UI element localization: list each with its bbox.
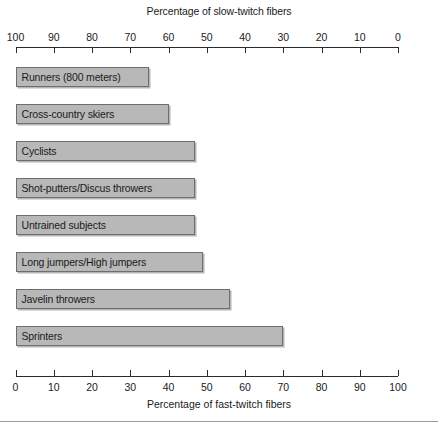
bottom-axis-tick-70: 70 — [277, 381, 289, 394]
bottom-axis-tick-20: 20 — [86, 381, 98, 394]
bottom-axis-line — [16, 376, 399, 377]
top-axis-tickmark-30 — [283, 47, 284, 53]
chart-figure: Percentage of slow-twitch fibers 1009080… — [0, 0, 438, 429]
bottom-axis-tick-80: 80 — [316, 381, 328, 394]
bar-label: Runners (800 meters) — [22, 71, 121, 83]
bottom-axis-tickmark-20 — [92, 370, 93, 376]
bottom-axis-tickmark-100 — [398, 370, 399, 376]
bar-label: Cross-country skiers — [22, 108, 115, 120]
bottom-axis-tick-0: 0 — [13, 381, 19, 394]
top-axis-tickmark-0 — [398, 47, 399, 53]
bar-label: Javelin throwers — [22, 293, 95, 305]
bottom-axis-tickmark-30 — [130, 370, 131, 376]
top-axis-tickmark-50 — [207, 47, 208, 53]
bottom-axis-tickmark-50 — [207, 370, 208, 376]
bar: Runners (800 meters) — [16, 67, 150, 87]
top-axis-tickmark-10 — [360, 47, 361, 53]
bottom-axis-tick-30: 30 — [124, 381, 136, 394]
top-axis-tickmark-40 — [245, 47, 246, 53]
bottom-axis-tickmark-70 — [283, 370, 284, 376]
top-axis-tickmark-100 — [16, 47, 17, 53]
bar-label: Untrained subjects — [22, 219, 106, 231]
bottom-axis-tick-10: 10 — [48, 381, 60, 394]
bottom-axis-title: Percentage of fast-twitch fibers — [0, 398, 438, 410]
bar: Sprinters — [16, 326, 284, 346]
bar: Untrained subjects — [16, 215, 196, 235]
bottom-axis-tick-100: 100 — [389, 381, 407, 394]
bottom-axis-tick-labels: 0102030405060708090100 — [0, 381, 438, 394]
bottom-axis-tick-50: 50 — [201, 381, 213, 394]
footer-divider — [0, 421, 438, 422]
bar: Javelin throwers — [16, 289, 230, 309]
bottom-axis-tickmark-90 — [360, 370, 361, 376]
bottom-axis-tick-90: 90 — [354, 381, 366, 394]
top-axis-tickmark-90 — [54, 47, 55, 53]
bar: Shot-putters/Discus throwers — [16, 178, 196, 198]
bottom-axis-tickmark-80 — [322, 370, 323, 376]
bottom-axis-tick-60: 60 — [239, 381, 251, 394]
top-axis-tickmark-70 — [130, 47, 131, 53]
bottom-axis-tickmark-10 — [54, 370, 55, 376]
bar: Long jumpers/High jumpers — [16, 252, 203, 272]
bar: Cross-country skiers — [16, 104, 169, 124]
bar-label: Sprinters — [22, 330, 63, 342]
top-axis-tickmark-60 — [169, 47, 170, 53]
bar-label: Cyclists — [22, 145, 57, 157]
bottom-axis-tickmark-60 — [245, 370, 246, 376]
bottom-axis-tickmark-40 — [169, 370, 170, 376]
top-axis-tickmark-80 — [92, 47, 93, 53]
bottom-axis-tick-40: 40 — [163, 381, 175, 394]
bar-label: Long jumpers/High jumpers — [22, 256, 147, 268]
bar: Cyclists — [16, 141, 196, 161]
top-axis-tickmark-20 — [322, 47, 323, 53]
bar-label: Shot-putters/Discus throwers — [22, 182, 153, 194]
bars-area: Runners (800 meters)Cross-country skiers… — [0, 0, 438, 429]
bottom-axis-tickmark-0 — [16, 370, 17, 376]
